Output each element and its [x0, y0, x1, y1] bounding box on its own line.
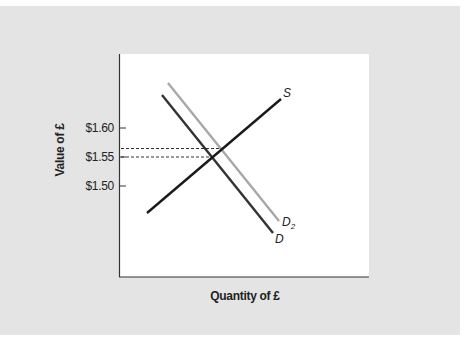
demand2-label-subscript: 2 — [291, 222, 295, 231]
y-axis-label: Value of £ — [53, 123, 67, 176]
x-axis-label: Quantity of £ — [210, 289, 279, 303]
demand-label: D — [275, 232, 284, 246]
demand2-label: D2 — [282, 215, 295, 231]
demand2-label-main: D — [282, 215, 291, 229]
y-tick-label-155: $1.55 — [85, 150, 114, 164]
supply-label: S — [283, 86, 291, 100]
supply-curve-s — [147, 99, 281, 213]
y-tick-label-160: $1.60 — [85, 121, 114, 135]
demand-curve-d — [162, 95, 273, 233]
y-tick-label-150: $1.50 — [85, 179, 114, 193]
demand-curve-d2 — [168, 83, 279, 221]
